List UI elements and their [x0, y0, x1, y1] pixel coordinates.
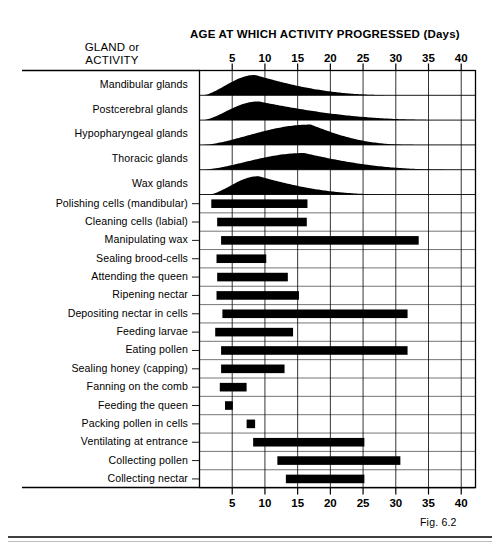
axis-tick-bottom-25: 25: [348, 497, 378, 509]
axis-tick-top-10: 10: [250, 52, 280, 64]
axis-tick-top-15: 15: [283, 52, 313, 64]
activity-bar: [221, 365, 284, 374]
activity-bar: [253, 438, 364, 447]
gland-curve: [203, 101, 465, 120]
activity-bar: [217, 273, 288, 282]
axis-tick-top-25: 25: [348, 52, 378, 64]
row-label: Eating pollen: [28, 343, 188, 355]
activity-bar: [225, 401, 233, 410]
axis-tick-bottom-20: 20: [315, 497, 345, 509]
axis-tick-top-35: 35: [414, 52, 444, 64]
activity-bar: [222, 309, 407, 318]
activity-bar: [217, 291, 299, 300]
gland-curve: [203, 125, 422, 145]
row-label: Packing pollen in cells: [28, 417, 188, 429]
activity-bar: [277, 456, 400, 465]
gland-curve: [203, 75, 409, 95]
row-label: Thoracic glands: [28, 152, 188, 164]
row-label: Polishing cells (mandibular): [28, 197, 188, 209]
row-label: Mandibular glands: [28, 78, 188, 90]
axis-tick-top-30: 30: [381, 52, 411, 64]
row-label: Postcerebral glands: [28, 103, 188, 115]
axis-tick-bottom-5: 5: [217, 497, 247, 509]
activity-bar: [247, 420, 256, 429]
row-label: Manipulating wax: [28, 233, 188, 245]
activity-bar: [221, 346, 407, 355]
row-label: Cleaning cells (labial): [28, 215, 188, 227]
row-label: Ripening nectar: [28, 288, 188, 300]
activity-bar: [217, 254, 267, 263]
axis-tick-bottom-40: 40: [446, 497, 476, 509]
axis-tick-bottom-30: 30: [381, 497, 411, 509]
gland-curve: [209, 176, 402, 194]
activity-bar: [220, 383, 247, 392]
row-label: Feeding larvae: [28, 325, 188, 337]
activity-bar: [211, 199, 307, 208]
axis-tick-top-40: 40: [446, 52, 476, 64]
row-label: Sealing honey (capping): [28, 362, 188, 374]
row-label: Feeding the queen: [28, 399, 188, 411]
row-label: Attending the queen: [28, 270, 188, 282]
row-label: Wax glands: [28, 177, 188, 189]
row-label: Depositing nectar in cells: [28, 307, 188, 319]
axis-tick-bottom-15: 15: [283, 497, 313, 509]
row-label: Hypopharyngeal glands: [28, 127, 188, 139]
axis-tick-top-5: 5: [217, 52, 247, 64]
row-label: Fanning on the comb: [28, 380, 188, 392]
activity-bar: [221, 236, 419, 245]
axis-tick-bottom-10: 10: [250, 497, 280, 509]
row-label: Collecting pollen: [28, 454, 188, 466]
row-label: Collecting nectar: [28, 472, 188, 484]
row-label: Ventilating at entrance: [28, 435, 188, 447]
axis-tick-bottom-35: 35: [414, 497, 444, 509]
activity-bar: [215, 328, 293, 337]
figure-bee-activity: AGE AT WHICH ACTIVITY PROGRESSED (Days) …: [0, 0, 500, 554]
row-label: Sealing brood-cells: [28, 252, 188, 264]
axis-tick-top-20: 20: [315, 52, 345, 64]
activity-bar: [217, 218, 307, 227]
activity-bar: [286, 475, 365, 484]
gland-curve: [203, 153, 465, 170]
